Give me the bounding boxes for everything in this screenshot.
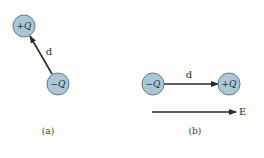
negative-charge-label-b: −Q (146, 80, 161, 89)
field-label: E (239, 107, 246, 117)
caption-a: (a) (42, 127, 54, 136)
dipole-label-b: d (186, 70, 192, 80)
positive-charge-label-a: +Q (17, 22, 32, 31)
dipole-label-a: d (46, 47, 52, 57)
dipole-diagram: +Q −Q d (a) −Q +Q d E (b) (0, 0, 264, 158)
positive-charge-label-b: +Q (222, 80, 237, 89)
negative-charge-label-a: −Q (51, 80, 66, 89)
caption-b: (b) (189, 127, 202, 136)
